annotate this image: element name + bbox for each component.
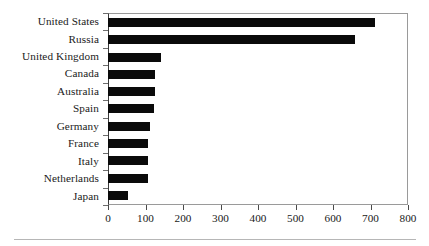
bar-germany xyxy=(108,122,150,131)
category-label-germany: Germany xyxy=(0,118,104,135)
bar-slot xyxy=(109,14,407,31)
bar-australia xyxy=(108,87,155,96)
value-tick-label: 500 xyxy=(287,210,304,226)
category-label-canada: Canada xyxy=(0,65,104,82)
bar-slot xyxy=(109,118,407,135)
bar-slot xyxy=(109,169,407,186)
value-tick-label: 100 xyxy=(137,210,154,226)
footer-divider xyxy=(14,239,416,240)
value-tick-label: 800 xyxy=(400,210,417,226)
bar-france xyxy=(108,139,148,148)
bar-netherlands xyxy=(108,174,148,183)
category-label-australia: Australia xyxy=(0,83,104,100)
bar-united-states xyxy=(108,18,375,27)
category-axis: United States Russia United Kingdom Cana… xyxy=(0,13,104,205)
bar-slot xyxy=(109,135,407,152)
bar-slot xyxy=(109,66,407,83)
category-label-italy: Italy xyxy=(0,153,104,170)
value-tick-label: 0 xyxy=(105,210,111,226)
category-label-france: France xyxy=(0,135,104,152)
value-tick-label: 400 xyxy=(250,210,267,226)
bar-slot xyxy=(109,187,407,204)
bar-japan xyxy=(108,191,128,200)
value-tick-label: 200 xyxy=(175,210,192,226)
category-label-japan: Japan xyxy=(0,188,104,205)
bar-slot xyxy=(109,152,407,169)
bars-layer xyxy=(109,14,407,204)
category-label-united-states: United States xyxy=(0,13,104,30)
bar-spain xyxy=(108,104,154,113)
bar-slot xyxy=(109,100,407,117)
bar-slot xyxy=(109,83,407,100)
bar-united-kingdom xyxy=(108,53,161,62)
bar-chart-figure: United States Russia United Kingdom Cana… xyxy=(0,0,429,246)
bar-canada xyxy=(108,70,155,79)
bar-slot xyxy=(109,49,407,66)
value-tick-label: 600 xyxy=(325,210,342,226)
category-label-united-kingdom: United Kingdom xyxy=(0,48,104,65)
plot-area xyxy=(108,13,408,205)
category-label-spain: Spain xyxy=(0,100,104,117)
bar-slot xyxy=(109,31,407,48)
bar-italy xyxy=(108,156,148,165)
category-label-russia: Russia xyxy=(0,30,104,47)
value-tick-label: 300 xyxy=(212,210,229,226)
category-label-netherlands: Netherlands xyxy=(0,170,104,187)
value-tick-label: 700 xyxy=(362,210,379,226)
bar-russia xyxy=(108,35,355,44)
value-axis-labels: 0100200300400500600700800 xyxy=(108,210,408,228)
